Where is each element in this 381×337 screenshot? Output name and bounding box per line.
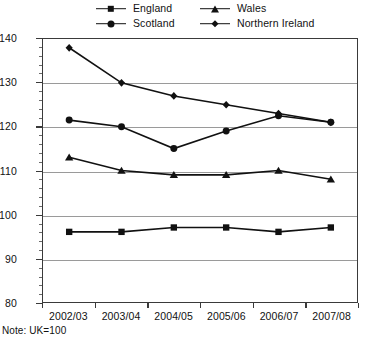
legend-label-england: England (133, 3, 172, 14)
data-point-marker (66, 229, 72, 235)
plot-wrapper: 8090100110120130140 2002/032003/042004/0… (0, 30, 381, 337)
x-axis-tick-label: 2005/06 (207, 310, 246, 322)
x-axis-tick (253, 303, 254, 308)
data-point-marker (328, 224, 334, 230)
y-axis-tick-label: 120 (0, 120, 17, 132)
series-line (69, 48, 331, 123)
legend-label-northern-ireland: Northern Ireland (237, 18, 314, 29)
x-axis-tick-label: 2007/08 (312, 310, 351, 322)
chart-container: England Wales Scotland Northern Ireland … (0, 0, 381, 337)
x-axis-tick (95, 303, 96, 308)
x-axis-tick-label: 2006/07 (260, 310, 299, 322)
y-axis-tick-label: 130 (0, 76, 17, 88)
x-axis-tick (305, 303, 306, 308)
legend-item-scotland[interactable]: Scotland (96, 16, 200, 31)
y-axis-tick-label: 140 (0, 32, 17, 44)
series-wales (65, 153, 335, 182)
x-axis-tick (42, 303, 43, 308)
series-layer (43, 39, 357, 302)
chart-legend: England Wales Scotland Northern Ireland (96, 1, 346, 31)
legend-label-wales: Wales (237, 3, 266, 14)
y-axis-tick-label: 90 (0, 253, 17, 265)
series-line (69, 116, 331, 149)
data-point-marker (327, 118, 334, 126)
circle-marker-icon (96, 18, 126, 30)
diamond-marker-icon (200, 18, 230, 30)
x-axis-tick-label: 2004/05 (154, 310, 193, 322)
data-point-marker (66, 117, 73, 124)
data-point-marker (171, 224, 177, 230)
square-marker-icon (96, 3, 126, 15)
series-line (69, 157, 331, 179)
legend-item-wales[interactable]: Wales (200, 1, 346, 16)
data-point-marker (118, 79, 125, 87)
triangle-marker-icon (200, 3, 230, 15)
data-point-marker (223, 224, 229, 230)
data-point-marker (65, 153, 73, 160)
y-axis-tick-label: 80 (0, 297, 17, 309)
series-england (66, 224, 334, 235)
series-northern-ireland (66, 44, 335, 126)
legend-label-scotland: Scotland (133, 18, 175, 29)
data-point-marker (223, 128, 230, 135)
chart-note: Note: UK=100 (2, 325, 66, 336)
data-point-marker (118, 229, 124, 235)
data-point-marker (170, 145, 177, 152)
x-axis-tick (358, 303, 359, 308)
x-axis-tick (200, 303, 201, 308)
y-axis-tick-label: 110 (0, 165, 17, 177)
x-axis-tick-label: 2002/03 (49, 310, 88, 322)
x-axis-tick (147, 303, 148, 308)
plot-area (42, 38, 358, 303)
data-point-marker (66, 44, 73, 52)
data-point-marker (223, 101, 230, 109)
legend-item-england[interactable]: England (96, 1, 200, 16)
series-line (69, 227, 331, 231)
data-point-marker (170, 92, 177, 100)
y-axis-tick-label: 100 (0, 209, 17, 221)
x-axis-tick-label: 2003/04 (102, 310, 141, 322)
series-scotland (66, 112, 335, 152)
data-point-marker (275, 229, 281, 235)
data-point-marker (118, 123, 125, 130)
legend-item-northern-ireland[interactable]: Northern Ireland (200, 16, 346, 31)
